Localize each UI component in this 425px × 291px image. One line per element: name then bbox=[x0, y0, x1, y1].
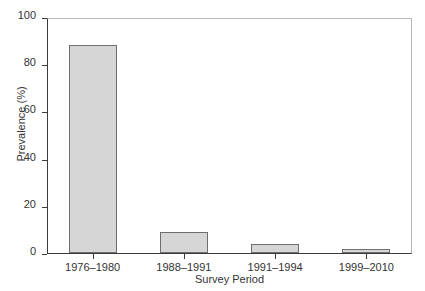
bar[interactable] bbox=[251, 244, 299, 253]
y-tick-mark bbox=[42, 254, 47, 255]
y-tick-mark bbox=[42, 112, 47, 113]
bar-slot bbox=[320, 19, 411, 253]
bar-slot bbox=[139, 19, 230, 253]
y-tick-label: 0 bbox=[30, 246, 36, 257]
x-tick-mark bbox=[93, 254, 94, 259]
bar-slot bbox=[48, 19, 139, 253]
x-tick-mark bbox=[366, 254, 367, 259]
y-axis-title: Prevalence (%) bbox=[15, 24, 27, 224]
bar[interactable] bbox=[342, 249, 390, 253]
x-tick-label: 1976–1980 bbox=[47, 262, 138, 273]
bar-slot bbox=[230, 19, 321, 253]
bar[interactable] bbox=[69, 45, 117, 253]
x-tick-mark bbox=[184, 254, 185, 259]
x-tick-label: 1999–2010 bbox=[321, 262, 412, 273]
plot-area bbox=[47, 18, 412, 254]
bars-container bbox=[48, 19, 411, 253]
x-tick-mark bbox=[275, 254, 276, 259]
y-tick-mark bbox=[42, 18, 47, 19]
y-tick-label: 100 bbox=[18, 10, 36, 21]
x-tick-label: 1988–1991 bbox=[138, 262, 229, 273]
y-tick-mark bbox=[42, 160, 47, 161]
x-axis-title: Survey Period bbox=[47, 274, 412, 285]
bar[interactable] bbox=[160, 232, 208, 253]
y-tick-mark bbox=[42, 207, 47, 208]
y-tick-mark bbox=[42, 65, 47, 66]
x-tick-label: 1991–1994 bbox=[230, 262, 321, 273]
bar-chart-figure: 020406080100 Prevalence (%) 1976–1980198… bbox=[0, 0, 425, 291]
